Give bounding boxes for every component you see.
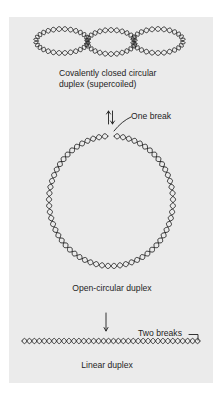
- linear-duplex-icon: [22, 338, 200, 343]
- supercoiled-duplex-icon: [34, 27, 185, 57]
- supercoiled-caption-line2: duplex (supercoiled): [59, 79, 136, 90]
- dna-forms-diagram: [0, 0, 223, 394]
- one-break-label: One break: [131, 111, 171, 122]
- linear-break-arrow-icon: [104, 313, 108, 331]
- strand-break-arrows-icon: [107, 111, 115, 124]
- supercoiled-caption-line1: Covalently closed circular: [59, 68, 156, 79]
- one-break-leader-line: [114, 117, 131, 131]
- two-breaks-label: Two breaks: [138, 328, 182, 339]
- open-circular-caption: Open-circular duplex: [52, 283, 172, 294]
- linear-caption: Linear duplex: [57, 360, 157, 371]
- open-circular-duplex-icon: [46, 134, 175, 269]
